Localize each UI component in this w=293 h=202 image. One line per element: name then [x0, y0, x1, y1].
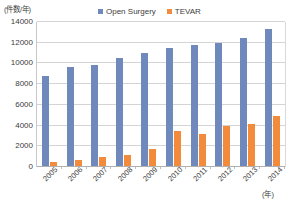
- legend-swatch-tevar: [167, 9, 172, 14]
- bar-group-2011: [186, 22, 211, 166]
- bar-tevar-2011: [199, 134, 206, 166]
- chart-legend: Open SurgeryTEVAR: [98, 7, 201, 16]
- bar-open-surgery-2013: [240, 38, 247, 166]
- bar-open-surgery-2009: [141, 53, 148, 166]
- bar-groups: [37, 22, 285, 166]
- x-axis-tick-labels: 2005200620072008200920102011201220132014: [36, 170, 286, 194]
- bar-group-2005: [37, 22, 62, 166]
- y-tick-label: 12000: [11, 37, 33, 46]
- y-tick-label: 8000: [15, 79, 33, 88]
- x-axis-unit-label: (年): [262, 188, 274, 199]
- x-tick-cell: 2006: [61, 170, 86, 194]
- bar-tevar-2012: [223, 126, 230, 166]
- x-tick-label: 2014: [266, 165, 284, 183]
- x-tick-label: 2007: [91, 165, 109, 183]
- y-axis-unit-label: (件数/年): [4, 3, 31, 14]
- bar-tevar-2009: [149, 149, 156, 166]
- bar-tevar-2013: [248, 124, 255, 166]
- legend-swatch-open-surgery: [98, 9, 103, 14]
- x-tick-label: 2008: [116, 165, 134, 183]
- bar-tevar-2014: [273, 116, 280, 166]
- x-tick-cell: 2011: [186, 170, 211, 194]
- x-tick-label: 2006: [66, 165, 84, 183]
- x-tick-cell: 2005: [36, 170, 61, 194]
- bar-tevar-2010: [174, 131, 181, 166]
- x-tick-label: 2010: [166, 165, 184, 183]
- legend-label: TEVAR: [175, 7, 201, 16]
- x-tick-cell: 2007: [86, 170, 111, 194]
- bar-group-2008: [111, 22, 136, 166]
- y-tick-label: 4000: [15, 120, 33, 129]
- bar-group-2009: [136, 22, 161, 166]
- legend-label: Open Surgery: [106, 7, 156, 16]
- bar-open-surgery-2010: [166, 48, 173, 166]
- bar-group-2007: [87, 22, 112, 166]
- bar-open-surgery-2011: [191, 45, 198, 166]
- bar-open-surgery-2014: [265, 29, 272, 166]
- x-tick-cell: 2013: [236, 170, 261, 194]
- y-tick-label: 0: [29, 162, 33, 171]
- chart-figure: (件数/年) Open SurgeryTEVAR 020004000600080…: [0, 0, 293, 202]
- bar-open-surgery-2005: [42, 76, 49, 166]
- bar-open-surgery-2006: [67, 67, 74, 166]
- bar-group-2013: [235, 22, 260, 166]
- x-tick-cell: 2009: [136, 170, 161, 194]
- x-tick-label: 2012: [216, 165, 234, 183]
- bar-open-surgery-2012: [215, 43, 222, 166]
- bar-group-2010: [161, 22, 186, 166]
- plot-area: 02000400060008000100001200014000: [36, 22, 286, 167]
- y-tick-label: 14000: [11, 17, 33, 26]
- x-tick-label: 2013: [241, 165, 259, 183]
- x-tick-cell: 2008: [111, 170, 136, 194]
- x-tick-cell: 2012: [211, 170, 236, 194]
- bar-open-surgery-2008: [116, 58, 123, 166]
- bar-open-surgery-2007: [91, 65, 98, 167]
- bar-group-2014: [260, 22, 285, 166]
- x-tick-label: 2009: [141, 165, 159, 183]
- x-tick-label: 2005: [41, 165, 59, 183]
- x-tick-label: 2011: [191, 165, 209, 183]
- bar-group-2012: [211, 22, 236, 166]
- legend-item-open-surgery: Open Surgery: [98, 7, 156, 16]
- bar-group-2006: [62, 22, 87, 166]
- y-tick-label: 2000: [15, 141, 33, 150]
- y-tick-label: 6000: [15, 99, 33, 108]
- x-tick-cell: 2010: [161, 170, 186, 194]
- y-tick-label: 10000: [11, 58, 33, 67]
- legend-item-tevar: TEVAR: [167, 7, 201, 16]
